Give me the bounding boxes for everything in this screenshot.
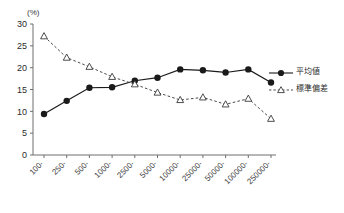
x-axis-tick-labels: 100-250-500-1000-2500-5000-10000-25000-5…	[28, 159, 273, 186]
chart-container: (%) 051015202530 100-250-500-1000-2500-5…	[0, 0, 344, 213]
svg-text:100-: 100-	[28, 159, 46, 177]
chart-plot-area: 051015202530 100-250-500-1000-2500-5000-…	[0, 0, 344, 213]
svg-text:10000-: 10000-	[158, 159, 182, 183]
svg-text:25: 25	[17, 41, 27, 51]
legend-label-mean: 平均値	[296, 65, 320, 76]
svg-text:15: 15	[17, 85, 27, 95]
svg-text:100000-: 100000-	[223, 159, 250, 186]
legend-item-stddev: 標準偏差	[268, 79, 344, 96]
svg-text:20: 20	[17, 63, 27, 73]
svg-text:25000-: 25000-	[180, 159, 204, 183]
chart-legend: 平均値 標準偏差	[268, 62, 344, 96]
legend-label-stddev: 標準偏差	[296, 82, 328, 93]
svg-text:2500-: 2500-	[115, 159, 136, 180]
svg-text:250-: 250-	[50, 159, 68, 177]
svg-text:5: 5	[22, 128, 27, 138]
svg-text:250000-: 250000-	[245, 159, 272, 186]
svg-text:1000-: 1000-	[93, 159, 114, 180]
data-series-layer	[41, 33, 275, 122]
legend-item-mean: 平均値	[268, 62, 344, 79]
legend-marker-open-triangle-icon	[268, 82, 294, 94]
svg-text:5000-: 5000-	[138, 159, 159, 180]
legend-marker-filled-circle-icon	[268, 65, 294, 77]
svg-text:10: 10	[17, 107, 27, 117]
svg-text:0: 0	[22, 150, 27, 160]
svg-text:30: 30	[17, 19, 27, 29]
y-axis-ticks: 051015202530	[17, 19, 33, 160]
svg-text:500-: 500-	[73, 159, 91, 177]
